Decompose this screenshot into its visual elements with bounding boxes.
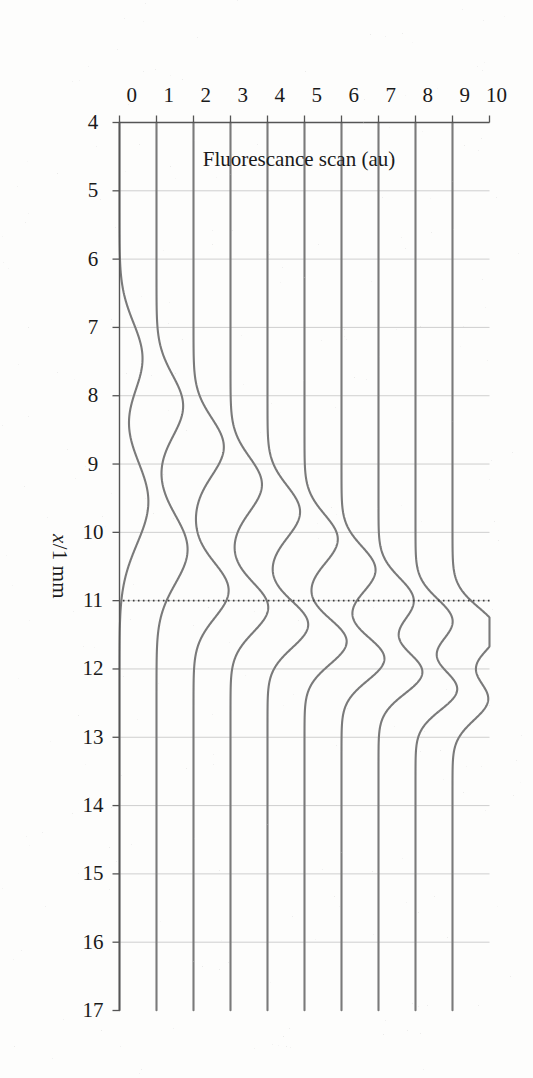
scan-speck bbox=[382, 197, 383, 198]
scan-speck bbox=[427, 1005, 428, 1006]
x-axis-title-text: x/1 mm bbox=[48, 534, 72, 599]
scan-speck bbox=[94, 647, 95, 648]
scan-speck bbox=[317, 523, 318, 524]
scan-speck bbox=[521, 735, 522, 736]
scan-speck bbox=[412, 1003, 413, 1004]
scan-speck bbox=[216, 177, 217, 178]
scan-speck bbox=[141, 1069, 142, 1070]
scan-speck bbox=[297, 151, 298, 152]
plot-area bbox=[120, 123, 490, 1011]
scan-speck bbox=[121, 775, 122, 776]
scan-speck bbox=[219, 870, 220, 871]
scan-speck bbox=[334, 896, 335, 897]
scan-speck bbox=[481, 138, 482, 139]
y-tick-label: 2 bbox=[177, 83, 211, 108]
scan-speck bbox=[212, 714, 213, 715]
scan-speck bbox=[290, 1047, 291, 1048]
scan-speck bbox=[418, 1006, 419, 1007]
scan-speck bbox=[344, 336, 345, 337]
scan-speck bbox=[489, 479, 490, 480]
scan-speck bbox=[120, 1046, 121, 1047]
scan-speck bbox=[394, 726, 395, 727]
scan-speck bbox=[173, 518, 174, 519]
scan-speck bbox=[477, 66, 478, 67]
scan-speck bbox=[460, 346, 461, 347]
scan-speck bbox=[383, 1034, 384, 1035]
scan-speck bbox=[228, 962, 229, 963]
y-tick-label: 9 bbox=[436, 83, 470, 108]
scan-speck bbox=[193, 961, 194, 962]
scan-speck bbox=[170, 166, 171, 167]
scan-speck bbox=[440, 750, 441, 751]
scan-speck bbox=[405, 248, 406, 249]
scan-speck bbox=[75, 478, 76, 479]
scan-speck bbox=[27, 161, 28, 162]
scan-speck bbox=[52, 1058, 53, 1059]
scan-speck bbox=[232, 230, 233, 231]
scan-speck bbox=[406, 902, 407, 903]
scan-speck bbox=[407, 1030, 408, 1031]
scan-speck bbox=[173, 601, 174, 602]
scan-speck bbox=[272, 1044, 273, 1045]
scan-speck bbox=[485, 307, 486, 308]
scan-speck bbox=[497, 906, 498, 907]
scan-speck bbox=[237, 0, 238, 1]
scan-speck bbox=[123, 676, 124, 677]
scan-speck bbox=[366, 379, 367, 380]
scan-speck bbox=[102, 737, 103, 738]
scan-speck bbox=[492, 609, 493, 610]
scan-speck bbox=[453, 229, 454, 230]
scan-speck bbox=[431, 232, 432, 233]
scan-speck bbox=[6, 555, 7, 556]
scan-speck bbox=[298, 620, 299, 621]
scan-speck bbox=[405, 95, 406, 96]
scan-speck bbox=[139, 144, 140, 145]
scan-speck bbox=[322, 869, 323, 870]
scan-speck bbox=[139, 1073, 140, 1074]
scan-speck bbox=[254, 611, 255, 612]
scan-speck bbox=[168, 323, 169, 324]
scan-speck bbox=[482, 279, 483, 280]
x-tick-label: 8 bbox=[73, 383, 113, 408]
scan-speck bbox=[29, 620, 30, 621]
y-tick-label: 6 bbox=[325, 83, 359, 108]
scan-speck bbox=[389, 127, 390, 128]
scan-speck bbox=[478, 1005, 479, 1006]
scan-speck bbox=[462, 9, 463, 10]
scan-speck bbox=[149, 602, 150, 603]
scan-speck bbox=[145, 3, 146, 4]
scan-speck bbox=[112, 396, 113, 397]
scan-speck bbox=[83, 646, 84, 647]
scan-speck bbox=[520, 782, 521, 783]
rotated-figure-container: 4567891011121314151617 012345678910 x/1 … bbox=[34, 37, 500, 1042]
scan-speck bbox=[466, 766, 467, 767]
trace-line bbox=[120, 123, 149, 1011]
scan-speck bbox=[321, 340, 322, 341]
scan-speck bbox=[137, 325, 138, 326]
scan-speck bbox=[21, 950, 22, 951]
trace-line bbox=[416, 123, 458, 1011]
scan-speck bbox=[422, 131, 423, 132]
scan-speck bbox=[96, 146, 97, 147]
scan-speck bbox=[3, 262, 4, 263]
scan-speck bbox=[186, 430, 187, 431]
scan-speck bbox=[487, 360, 488, 361]
scan-speck bbox=[402, 858, 403, 859]
scan-speck bbox=[131, 844, 132, 845]
scan-speck bbox=[24, 486, 25, 487]
y-tick-label: 5 bbox=[288, 83, 322, 108]
scan-speck bbox=[193, 625, 194, 626]
scan-speck bbox=[128, 104, 129, 105]
x-tick-label: 5 bbox=[73, 178, 113, 203]
scan-speck bbox=[293, 694, 294, 695]
chart-canvas bbox=[120, 123, 490, 1011]
x-tick-label: 7 bbox=[73, 315, 113, 340]
scan-speck bbox=[385, 36, 386, 37]
scan-speck bbox=[379, 356, 380, 357]
scan-speck bbox=[143, 21, 144, 22]
scan-speck bbox=[392, 158, 393, 159]
scan-speck bbox=[481, 766, 482, 767]
scan-speck bbox=[170, 75, 171, 76]
scan-speck bbox=[282, 267, 283, 268]
scan-speck bbox=[516, 760, 517, 761]
